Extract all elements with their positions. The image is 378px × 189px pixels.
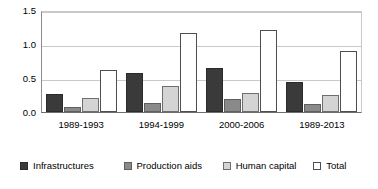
plot-area: [41, 11, 362, 113]
bar[interactable]: [224, 99, 241, 112]
bar-chart: 1.5 1.0 0.5 0.0 1989-19931994-19992000-2…: [0, 0, 378, 189]
x-axis: 1989-19931994-19992000-20061989-2013: [41, 119, 362, 131]
bar[interactable]: [322, 95, 339, 112]
bar[interactable]: [144, 103, 161, 112]
bar-group: [122, 12, 202, 112]
bar-group: [202, 12, 282, 112]
legend-swatch-icon: [20, 162, 28, 170]
legend-item-label: Infrastructures: [33, 160, 94, 171]
bar[interactable]: [340, 51, 357, 112]
x-tick-label: 1989-1993: [41, 119, 121, 131]
y-tick-label-0.5: 0.5: [23, 74, 36, 84]
legend-item-production-aids[interactable]: Production aids: [124, 160, 223, 171]
bar[interactable]: [304, 104, 321, 112]
bar[interactable]: [82, 98, 99, 112]
bar-groups: [42, 12, 361, 112]
bar[interactable]: [206, 68, 223, 112]
legend-item-infrastructures[interactable]: Infrastructures: [20, 160, 124, 171]
chart-legend: Infrastructures Production aids Human ca…: [20, 160, 365, 171]
bar[interactable]: [260, 30, 277, 112]
bar-group: [281, 12, 361, 112]
y-tick-label-1.0: 1.0: [23, 40, 36, 50]
bar[interactable]: [64, 107, 81, 112]
bar[interactable]: [126, 73, 143, 112]
bar[interactable]: [162, 86, 179, 112]
legend-swatch-icon: [223, 162, 231, 170]
legend-item-human-capital[interactable]: Human capital: [223, 160, 314, 171]
bar[interactable]: [286, 82, 303, 112]
legend-item-total[interactable]: Total: [313, 160, 365, 171]
legend-item-label: Production aids: [137, 160, 202, 171]
legend-swatch-icon: [124, 162, 132, 170]
x-tick-label: 1994-1999: [121, 119, 201, 131]
bar[interactable]: [100, 70, 117, 112]
y-tick-label-1.5: 1.5: [23, 6, 36, 16]
y-tick-label-0.0: 0.0: [23, 108, 36, 118]
legend-swatch-icon: [313, 162, 321, 170]
bar[interactable]: [180, 33, 197, 112]
legend-item-label: Total: [326, 160, 346, 171]
legend-item-label: Human capital: [236, 160, 297, 171]
x-tick-label: 1989-2013: [282, 119, 362, 131]
bar[interactable]: [46, 94, 63, 112]
bar-group: [42, 12, 122, 112]
bar[interactable]: [242, 93, 259, 112]
x-tick-label: 2000-2006: [202, 119, 282, 131]
